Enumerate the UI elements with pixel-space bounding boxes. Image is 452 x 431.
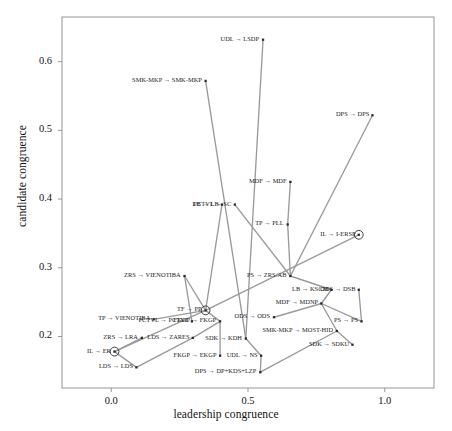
data-point[interactable] [219,320,221,322]
point-label: SMK-MKP → SMK-MKP [132,76,202,83]
y-tick-label: 0.6 [12,55,52,66]
data-point[interactable] [358,234,360,236]
point-label: ODS → DSB [320,285,355,292]
point-label: UDL → LSDP [221,35,260,42]
point-label: DPS → DPS [336,110,369,117]
data-point[interactable] [289,181,291,183]
data-point[interactable] [260,355,262,357]
data-point[interactable] [135,366,137,368]
point-label: LDS → ZARES [147,333,189,340]
data-point[interactable] [113,350,115,352]
point-label: FKGP → FKGP [174,316,217,323]
data-point[interactable] [351,344,353,346]
data-point[interactable] [358,289,360,291]
y-tick-label: 0.3 [12,261,52,272]
data-point[interactable] [287,223,289,225]
scatter-plot-figure: candidate congruence leadership congruen… [0,0,452,431]
x-tick-label: 0.0 [91,395,131,406]
point-label: PS → PS [334,316,358,323]
data-point[interactable] [219,355,221,357]
point-label: TP → PLL [255,219,284,226]
point-label: ODS → ODS [234,312,270,319]
data-point[interactable] [192,337,194,339]
point-label: UDL → NS [227,351,258,358]
y-tick-label: 0.4 [12,192,52,203]
point-label: IL → ER [87,347,111,354]
point-label: FKGP → EKGP [174,351,217,358]
data-point[interactable] [245,337,247,339]
connector-line [260,356,261,372]
data-point[interactable] [183,275,185,277]
data-point[interactable] [273,316,275,318]
data-point[interactable] [360,320,362,322]
point-label: DPS → DP+KDS+LZP [195,367,257,374]
data-point[interactable] [141,337,143,339]
x-tick-label: 0.5 [228,395,268,406]
point-label: SMK-MKP → MOST-HID [262,326,333,333]
data-point[interactable] [336,330,338,332]
data-point[interactable] [371,114,373,116]
data-point[interactable] [320,302,322,304]
point-label: PS → ZRS/AB [247,271,287,278]
data-point[interactable] [204,80,206,82]
data-point[interactable] [262,39,264,41]
y-axis-title: candidate congruence [16,76,28,276]
x-tick-label: 1.0 [365,395,405,406]
x-axis-title: leadership congruence [0,408,452,420]
point-label: SDK → SDKU [309,340,349,347]
point-label: MDF → MDNP [276,298,318,305]
point-label: PCTVL → SC [193,200,231,207]
point-label: ZRS → LRA [103,333,138,340]
data-point[interactable] [204,309,206,311]
data-point[interactable] [289,275,291,277]
y-tick-label: 0.5 [12,123,52,134]
point-label: TF → PP [177,305,202,312]
point-label: ZRS → VIENOTIBA [124,271,181,278]
data-point[interactable] [259,371,261,373]
y-tick-label: 0.2 [12,329,52,340]
point-label: MDF → MDF [249,177,287,184]
point-label: IL → I-ERSP [320,230,355,237]
point-label: SDK → KDH [205,334,242,341]
data-point[interactable] [234,203,236,205]
point-label: LDS → LDS [99,362,133,369]
